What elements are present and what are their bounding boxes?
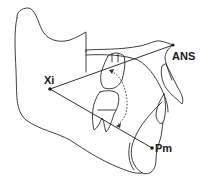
arc-arrowhead-top xyxy=(109,69,114,74)
lower-incisor xyxy=(156,94,166,123)
xi-pm-line xyxy=(50,89,152,148)
cephalometric-diagram: Xi ANS Pm xyxy=(0,0,202,181)
pm-point xyxy=(150,146,154,150)
lower-molar xyxy=(93,91,119,132)
mandible-outline xyxy=(15,8,142,173)
pm-label: Pm xyxy=(155,142,172,154)
xi-label: Xi xyxy=(44,74,54,86)
xi-ans-line xyxy=(50,45,173,89)
ans-label: ANS xyxy=(172,50,195,62)
symphysis-outline xyxy=(131,102,163,174)
ans-point xyxy=(172,44,175,47)
xi-point xyxy=(48,87,52,91)
